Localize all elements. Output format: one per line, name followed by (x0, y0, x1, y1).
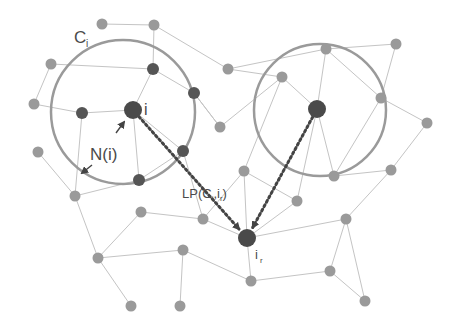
node-n20 (175, 301, 186, 312)
node-n19 (126, 301, 137, 312)
label-cluster-ci: C i (74, 28, 88, 49)
node-layer (29, 19, 433, 312)
edge (297, 109, 317, 201)
node-n30 (292, 196, 303, 207)
edge (391, 123, 427, 170)
node-n23 (391, 39, 402, 50)
edge (247, 201, 297, 238)
node-n13 (133, 174, 145, 186)
node-ir (238, 229, 256, 247)
target-label: i (255, 247, 258, 262)
node-n27 (239, 166, 250, 177)
edge (133, 110, 183, 151)
node-n10 (215, 122, 226, 133)
node-i-label: i (144, 101, 148, 118)
edge (220, 77, 282, 127)
node-n24 (376, 93, 387, 104)
node-n2 (149, 20, 160, 31)
cluster-C-i (51, 40, 195, 184)
node-n4 (147, 63, 159, 75)
edge (251, 271, 330, 281)
node-n16 (198, 214, 209, 225)
edge (244, 77, 282, 171)
path-layer (139, 117, 313, 229)
edge (381, 98, 427, 123)
edge (330, 271, 365, 301)
path-i-to-ir (139, 117, 239, 229)
edge (154, 25, 228, 69)
edge (183, 250, 251, 281)
node-n26 (422, 118, 433, 129)
edge (98, 250, 183, 258)
cluster-label-subscript: i (86, 38, 88, 49)
edge (317, 49, 326, 109)
node-n14 (70, 191, 81, 202)
path-label: LP(Ci,ir) (182, 186, 227, 203)
target-label-subscript: r (260, 256, 263, 265)
node-n12 (177, 145, 189, 157)
neighborhood-arrow-2 (82, 165, 92, 173)
node-n15 (136, 207, 147, 218)
edge (247, 219, 346, 238)
edge (317, 109, 334, 176)
node-n29 (386, 165, 397, 176)
graph-canvas: C i i N(i) LP(Ci,ir) i r (0, 0, 456, 331)
node-n1 (97, 19, 108, 30)
edge (346, 170, 391, 219)
edge (133, 110, 139, 180)
cluster-label: C (74, 28, 86, 47)
node-n11 (33, 147, 44, 158)
edge (194, 93, 220, 127)
node-n31 (341, 214, 352, 225)
node-n7 (29, 99, 40, 110)
node-n33 (246, 276, 257, 287)
neighborhood-arrow-1 (116, 122, 124, 133)
node-i (124, 101, 142, 119)
edge (75, 196, 98, 258)
node-n3 (46, 59, 57, 70)
node-n18 (178, 245, 189, 256)
node-n21 (277, 72, 288, 83)
label-path: LP(Ci,ir) (182, 186, 227, 203)
node-n22 (321, 44, 332, 55)
node-n8 (76, 107, 88, 119)
node-c2 (308, 100, 326, 118)
node-n34 (325, 266, 336, 277)
edge (75, 113, 82, 196)
edge (141, 212, 203, 219)
neighborhood-label: N(i) (90, 145, 117, 164)
edge (139, 151, 183, 180)
node-n5 (223, 64, 234, 75)
label-target-ir: i r (255, 247, 263, 265)
edge (102, 24, 154, 25)
node-n35 (360, 296, 371, 307)
edge (180, 250, 183, 306)
network-diagram: C i i N(i) LP(Ci,ir) i r (0, 0, 456, 331)
node-n17 (93, 253, 104, 264)
edge (326, 49, 381, 98)
edge (98, 212, 141, 258)
edge (98, 258, 131, 306)
edge (330, 219, 346, 271)
edge (34, 64, 51, 104)
edge (346, 219, 365, 301)
node-n28 (329, 171, 340, 182)
node-n6 (188, 87, 200, 99)
edge (34, 104, 82, 113)
edge (228, 69, 282, 77)
edge (244, 171, 247, 238)
